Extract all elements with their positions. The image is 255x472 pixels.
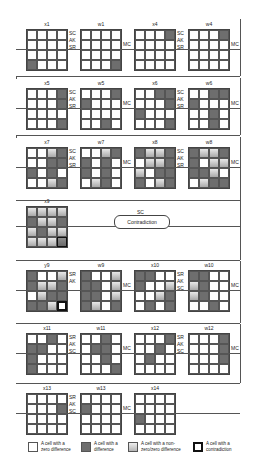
grid-cell: [91, 89, 101, 99]
op-label-round: SRAKSC: [177, 334, 184, 355]
grid-cell: [189, 119, 199, 129]
op-label-round: SCAKSR: [69, 148, 76, 169]
grid-cell: [165, 424, 175, 434]
state-grid: [188, 147, 230, 189]
grid-cell: [219, 364, 229, 374]
grid-cell: [27, 237, 37, 247]
grid-cell: [145, 148, 155, 158]
grid-cell: [155, 60, 165, 70]
state-grid: [188, 333, 230, 375]
grid-cell: [47, 414, 57, 424]
grid-cell: [47, 354, 57, 364]
grid-cell: [37, 301, 47, 311]
grid-cell: [27, 178, 37, 188]
grid-cell: [101, 301, 111, 311]
grid-cell: [145, 354, 155, 364]
legend-partial-swatch: [128, 442, 138, 452]
grid-cell: [199, 119, 209, 129]
op-label-mc: MC: [123, 41, 131, 48]
grid-cell: [189, 354, 199, 364]
grid-cell: [57, 424, 67, 434]
grid-cell: [27, 364, 37, 374]
grid-cell: [47, 207, 57, 217]
grid-label: x7: [26, 139, 68, 145]
state-grid: [80, 147, 122, 189]
op-label-mc: MC: [123, 100, 131, 107]
flow-line: [16, 167, 240, 168]
grid-cell: [81, 354, 91, 364]
state-grid: [80, 333, 122, 375]
grid-cell: [81, 301, 91, 311]
grid-label: x1: [26, 21, 68, 27]
grid-cell: [27, 119, 37, 129]
grid-cell: [27, 291, 37, 301]
grid-cell: [209, 60, 219, 70]
grid-cell: [135, 364, 145, 374]
grid-cell: [37, 50, 47, 60]
grid-cell: [209, 89, 219, 99]
grid-cell: [145, 301, 155, 311]
connector-line: [240, 261, 241, 323]
grid-cell: [155, 271, 165, 281]
connector-line: [16, 76, 17, 79]
grid-cell: [199, 271, 209, 281]
grid-label: w7: [80, 139, 122, 145]
grid-cell: [101, 414, 111, 424]
connector-line: [16, 323, 240, 324]
grid-cell: [155, 168, 165, 178]
grid-cell: [27, 301, 37, 311]
grid-cell: [165, 394, 175, 404]
grid-cell: [209, 178, 219, 188]
grid-cell: [37, 119, 47, 129]
grid-cell: [57, 291, 67, 301]
flow-line: [16, 290, 240, 291]
grid-label: w8: [188, 139, 230, 145]
grid-cell: [57, 414, 67, 424]
connector-line: [16, 135, 240, 136]
grid-cell: [91, 354, 101, 364]
grid-cell: [27, 394, 37, 404]
grid-cell: [91, 334, 101, 344]
grid-cell: [165, 178, 175, 188]
state-grid: [26, 29, 68, 71]
grid-cell: [101, 394, 111, 404]
op-label-round: SCAKSR: [177, 89, 184, 110]
op-label-mc: MC: [231, 282, 239, 289]
grid-cell: [209, 109, 219, 119]
grid-cell: [111, 60, 121, 70]
grid-cell: [209, 168, 219, 178]
grid-cell: [27, 271, 37, 281]
grid-cell: [27, 424, 37, 434]
grid-cell: [189, 148, 199, 158]
grid-cell: [209, 354, 219, 364]
grid-cell: [47, 60, 57, 70]
grid-label: x4: [134, 21, 176, 27]
grid-cell: [37, 334, 47, 344]
grid-cell: [81, 89, 91, 99]
grid-cell: [57, 394, 67, 404]
grid-cell: [219, 271, 229, 281]
legend-difference-text: A cell with adifference: [94, 441, 118, 452]
grid-cell: [165, 271, 175, 281]
grid-cell: [209, 119, 219, 129]
grid-cell: [37, 148, 47, 158]
grid-cell: [199, 30, 209, 40]
grid-cell: [145, 178, 155, 188]
grid-cell: [155, 364, 165, 374]
state-grid: [188, 29, 230, 71]
grid-cell: [145, 414, 155, 424]
grid-cell: [57, 50, 67, 60]
grid-cell: [219, 178, 229, 188]
grid-cell: [199, 178, 209, 188]
grid-cell: [101, 119, 111, 129]
grid-label: x8: [134, 139, 176, 145]
legend-contradiction-swatch: [193, 442, 203, 452]
grid-cell: [37, 424, 47, 434]
grid-cell: [37, 178, 47, 188]
grid-cell: [111, 119, 121, 129]
grid-cell: [47, 394, 57, 404]
grid-cell: [145, 30, 155, 40]
grid-cell: [101, 148, 111, 158]
grid-label: x13: [26, 385, 68, 391]
grid-cell: [111, 414, 121, 424]
